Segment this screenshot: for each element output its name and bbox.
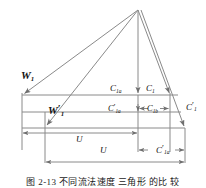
label-w1-prime: W′1 (48, 104, 64, 118)
label-c1a: C1a (110, 84, 122, 94)
velocity-triangle-diagram (0, 0, 206, 188)
label-c1a-prime-lower: C′1a (156, 144, 169, 156)
segment-c1 (138, 10, 169, 93)
label-u-upper: U (76, 135, 83, 144)
label-w1: W1 (21, 70, 34, 83)
label-c1-prime: C′1 (186, 101, 197, 113)
figure-caption: 图 2-13 不同流法速度 三角形 的比 较 (0, 175, 206, 188)
label-u-lower: U (100, 146, 107, 155)
figure-root: W1 W′1 C1a C1 C′1 C′1a C1b C′1a U U 图 2-… (0, 0, 206, 188)
label-c1b: C1b (147, 104, 158, 114)
label-c1: C1 (146, 84, 155, 94)
label-c1a-prime-upper: C′1a (108, 104, 121, 114)
